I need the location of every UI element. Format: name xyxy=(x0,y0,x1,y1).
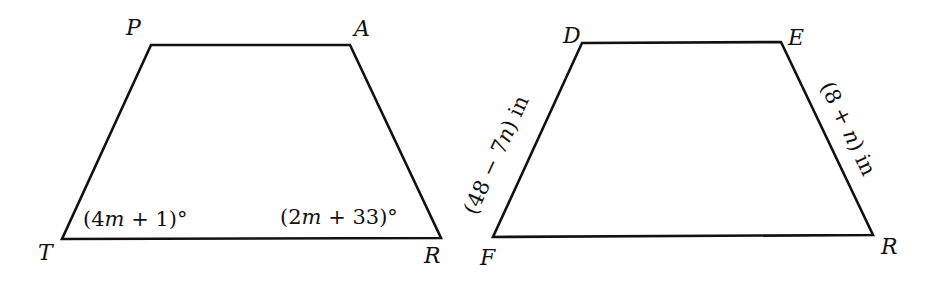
vertex-label-t: T xyxy=(38,240,55,265)
trapezoid-derf xyxy=(493,42,873,237)
diagram-canvas: P A R T (4m + 1)° (2m + 33)° D E R F (48… xyxy=(0,0,943,288)
angle-t-var: m xyxy=(105,207,125,231)
angle-r-var: m xyxy=(302,205,322,229)
vertex-label-e: E xyxy=(787,25,804,50)
angle-label-r: (2m + 33)° xyxy=(280,205,398,229)
vertex-label-a: A xyxy=(352,16,370,41)
side-df-pre: (48 − 7 xyxy=(459,136,514,218)
vertex-label-d: D xyxy=(562,23,581,48)
angle-t-post: + 1)° xyxy=(124,207,187,231)
vertex-label-r2: R xyxy=(880,234,898,259)
angle-t-pre: (4 xyxy=(83,207,105,231)
angle-label-t: (4m + 1)° xyxy=(83,207,187,231)
vertex-label-p: P xyxy=(125,15,142,40)
side-label-er: (8 + n) in xyxy=(815,78,880,180)
vertex-label-f: F xyxy=(479,245,496,270)
vertex-label-r: R xyxy=(423,243,441,268)
side-label-df: (48 − 7n) in xyxy=(459,92,534,218)
angle-r-post: + 33)° xyxy=(321,205,397,229)
angle-r-pre: (2 xyxy=(280,205,302,229)
